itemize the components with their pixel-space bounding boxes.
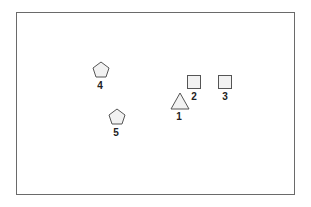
label-1: 1 [171,111,187,122]
label-4: 4 [92,80,108,91]
square-shape-2 [187,75,201,89]
square-shape-3 [218,75,232,89]
diagram-frame [16,12,295,195]
label-5: 5 [108,127,124,138]
pentagon-shape-5 [108,108,126,125]
label-2: 2 [186,91,202,102]
label-3: 3 [217,91,233,102]
pentagon-shape-4 [92,61,110,78]
